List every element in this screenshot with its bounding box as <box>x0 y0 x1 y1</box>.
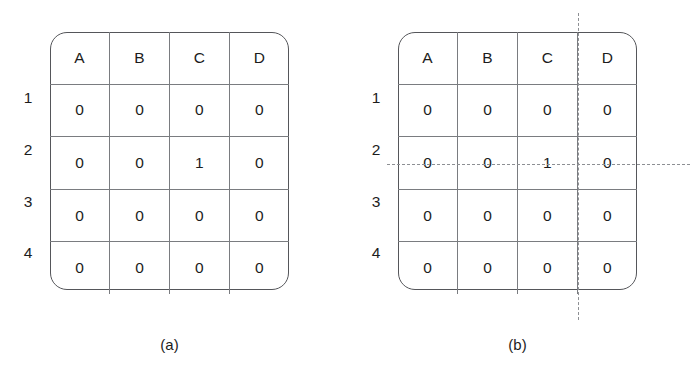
row-label-2-a: 2 <box>10 142 46 158</box>
table-row: 0 0 1 0 <box>50 137 289 190</box>
column-header-d-b: D <box>577 32 637 84</box>
table-row: 0 0 0 0 <box>50 189 289 242</box>
grid-table-b: A B C D 0 0 0 0 0 0 1 0 <box>398 32 637 294</box>
column-header-b-b: B <box>458 32 518 84</box>
table-header-row-a: A B C D <box>50 32 289 84</box>
cell-a2-b: 0 <box>398 137 458 190</box>
table-row: 0 0 0 0 <box>398 189 637 242</box>
cell-a4-b: 0 <box>398 242 458 294</box>
cell-d4-b: 0 <box>577 242 637 294</box>
panel-a: 1 2 3 4 A B C D 0 0 0 <box>0 0 348 373</box>
column-header-c-a: C <box>170 32 230 84</box>
cell-b3-a: 0 <box>110 189 170 242</box>
row-label-4-a: 4 <box>10 245 46 261</box>
grid-table-a: A B C D 0 0 0 0 0 0 1 0 <box>50 32 289 294</box>
grid-a: A B C D 0 0 0 0 0 0 1 0 <box>50 32 289 290</box>
table-row: 0 0 0 0 <box>398 242 637 294</box>
cell-d3-b: 0 <box>577 189 637 242</box>
cell-b1-a: 0 <box>110 84 170 137</box>
row-label-1-a: 1 <box>10 90 46 106</box>
cell-b2-a: 0 <box>110 137 170 190</box>
cell-d2-a: 0 <box>229 137 289 190</box>
grid-b: A B C D 0 0 0 0 0 0 1 0 <box>398 32 637 290</box>
row-label-3-a: 3 <box>10 194 46 210</box>
row-label-4-b: 4 <box>358 245 394 261</box>
cell-c2-b: 1 <box>518 137 578 190</box>
cell-a1-b: 0 <box>398 84 458 137</box>
cell-b4-a: 0 <box>110 242 170 294</box>
cell-b2-b: 0 <box>458 137 518 190</box>
row-labels-a: 1 2 3 4 <box>10 32 46 290</box>
table-row: 0 0 0 0 <box>50 242 289 294</box>
row-label-2-b: 2 <box>358 142 394 158</box>
table-row: 0 0 0 0 <box>398 84 637 137</box>
cell-a4-a: 0 <box>50 242 110 294</box>
column-header-d-a: D <box>229 32 289 84</box>
cell-b1-b: 0 <box>458 84 518 137</box>
guide-line-horizontal-row-2 <box>387 164 690 165</box>
cell-d1-a: 0 <box>229 84 289 137</box>
column-header-c-b: C <box>518 32 578 84</box>
cell-d4-a: 0 <box>229 242 289 294</box>
cell-c1-b: 0 <box>518 84 578 137</box>
row-labels-b: 1 2 3 4 <box>358 32 394 290</box>
table-row: 0 0 1 0 <box>398 137 637 190</box>
cell-a2-a: 0 <box>50 137 110 190</box>
cell-b3-b: 0 <box>458 189 518 242</box>
column-header-b-a: B <box>110 32 170 84</box>
cell-a3-a: 0 <box>50 189 110 242</box>
cell-c3-a: 0 <box>170 189 230 242</box>
row-label-1-b: 1 <box>358 90 394 106</box>
cell-d1-b: 0 <box>577 84 637 137</box>
cell-a1-a: 0 <box>50 84 110 137</box>
column-header-a-a: A <box>50 32 110 84</box>
column-header-a-b: A <box>398 32 458 84</box>
caption-b: (b) <box>398 336 637 353</box>
cell-c4-b: 0 <box>518 242 578 294</box>
cell-b4-b: 0 <box>458 242 518 294</box>
caption-a: (a) <box>50 336 289 353</box>
row-label-3-b: 3 <box>358 194 394 210</box>
panel-b: 1 2 3 4 A B C D 0 0 0 <box>348 0 696 373</box>
guide-line-vertical-column-c <box>578 13 579 320</box>
cell-d2-b: 0 <box>577 137 637 190</box>
cell-c3-b: 0 <box>518 189 578 242</box>
cell-c4-a: 0 <box>170 242 230 294</box>
cell-c1-a: 0 <box>170 84 230 137</box>
cell-c2-a: 1 <box>170 137 230 190</box>
figure-canvas: 1 2 3 4 A B C D 0 0 0 <box>0 0 696 373</box>
cell-a3-b: 0 <box>398 189 458 242</box>
table-row: 0 0 0 0 <box>50 84 289 137</box>
table-header-row-b: A B C D <box>398 32 637 84</box>
cell-d3-a: 0 <box>229 189 289 242</box>
